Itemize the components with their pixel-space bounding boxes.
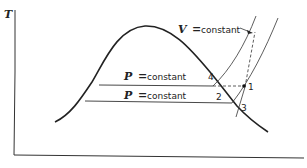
point-label-1: 1: [248, 82, 254, 92]
p-constant-lower-eq: =: [138, 89, 147, 102]
v-constant-eq: =: [192, 23, 201, 36]
x-axis: [14, 155, 304, 158]
point-label-3: 3: [241, 103, 247, 113]
state-point-1-marker: [242, 84, 246, 88]
point-label-2: 2: [216, 92, 222, 102]
p-constant-lower-line: [85, 101, 232, 103]
y-axis-label: T: [4, 8, 13, 21]
v-constant-var: V: [178, 23, 188, 36]
p-constant-upper-eq: =: [138, 70, 147, 83]
v-constant-dashed: [245, 32, 255, 87]
p-constant-lower-var: P: [123, 89, 133, 102]
p-constant-upper-var: P: [123, 70, 133, 83]
point-label-4: 4: [208, 72, 214, 82]
y-axis-lower: [14, 72, 15, 155]
p-constant-upper-text: constant: [147, 72, 187, 82]
p-constant-upper-line: [99, 85, 213, 86]
v-constant-text: constant: [201, 25, 241, 35]
ts-diagram: T V = constant P = constant P = constant…: [0, 0, 307, 168]
p-constant-lower-text: constant: [147, 91, 187, 101]
